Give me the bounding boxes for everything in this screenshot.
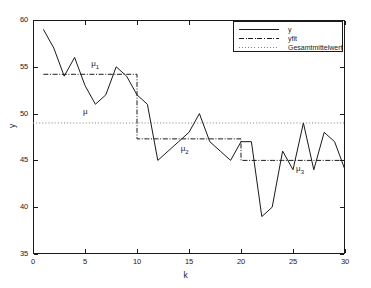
y-tick-mark: [34, 20, 38, 21]
x-tick-label: 25: [283, 257, 303, 266]
x-tick-mark: [345, 249, 346, 253]
y-tick-label: 45: [6, 155, 28, 164]
y-tick-mark-right: [340, 160, 344, 161]
x-axis-label: k: [0, 270, 371, 280]
mu-label: μ: [83, 107, 88, 116]
y-tick-mark-right: [340, 67, 344, 68]
y-tick-mark-right: [340, 207, 344, 208]
legend-label-gesamtmittelwert: Gesamtmittelwert: [288, 43, 342, 52]
plot-canvas: [33, 20, 345, 254]
data-svg: [33, 20, 345, 254]
y-axis-label: y: [7, 124, 17, 128]
y-tick-mark-right: [340, 114, 344, 115]
legend-swatch-gesamtmittelwert: [239, 47, 279, 48]
x-tick-mark: [241, 249, 242, 253]
legend-item-gesamtmittelwert[interactable]: Gesamtmittelwert: [234, 43, 344, 52]
y-tick-mark: [34, 160, 38, 161]
mu-2-label: μ2: [181, 144, 189, 155]
x-tick-label: 0: [23, 257, 43, 266]
y-tick-label: 40: [6, 202, 28, 211]
legend-swatch-yfit: [239, 38, 279, 39]
y-tick-mark: [34, 254, 38, 255]
y-tick-mark: [34, 207, 38, 208]
chart-figure: 354045505560051015202530 μ1μμ2μ3 y k y y…: [0, 0, 371, 288]
legend-item-y[interactable]: y: [234, 25, 344, 34]
x-tick-mark: [189, 249, 190, 253]
y-tick-mark: [34, 114, 38, 115]
x-tick-mark-top: [33, 21, 34, 25]
legend-label-y: y: [288, 25, 292, 34]
x-tick-mark-top: [189, 21, 190, 25]
x-tick-label: 5: [75, 257, 95, 266]
y-tick-mark: [34, 67, 38, 68]
x-tick-label: 30: [335, 257, 355, 266]
x-tick-mark-top: [137, 21, 138, 25]
x-tick-label: 15: [179, 257, 199, 266]
legend-label-yfit: yfit: [288, 34, 297, 43]
x-tick-mark: [85, 249, 86, 253]
mu-1-label: μ1: [91, 59, 99, 70]
x-tick-label: 20: [231, 257, 251, 266]
y-tick-label: 50: [6, 109, 28, 118]
legend-item-yfit[interactable]: yfit: [234, 34, 344, 43]
series-line-yfit: [43, 74, 345, 160]
chart-legend[interactable]: y yfit Gesamtmittelwert: [233, 21, 343, 52]
x-tick-mark: [137, 249, 138, 253]
y-tick-label: 55: [6, 62, 28, 71]
y-tick-mark-right: [340, 254, 344, 255]
x-tick-label: 10: [127, 257, 147, 266]
x-tick-mark: [293, 249, 294, 253]
x-tick-mark: [33, 249, 34, 253]
x-tick-mark-top: [85, 21, 86, 25]
mu-3-label: μ3: [296, 164, 304, 175]
y-tick-label: 60: [6, 15, 28, 24]
x-tick-mark-top: [345, 21, 346, 25]
legend-swatch-y: [239, 29, 279, 31]
